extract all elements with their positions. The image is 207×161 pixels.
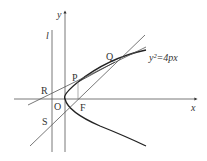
x-axis-label: x [190, 102, 196, 113]
point-f-label: F [80, 102, 86, 113]
curve-equation-label: y²=4px [148, 52, 178, 63]
point-q-label: Q [106, 51, 114, 62]
point-o-label: O [54, 101, 61, 112]
point-p-label: P [72, 72, 78, 83]
y-axis-label: y [56, 9, 62, 20]
point-r-label: R [41, 85, 48, 96]
point-s-label: S [42, 116, 48, 127]
parabola-curve [65, 50, 146, 146]
diagram-canvas: y x l y²=4px Q P R O F S [0, 0, 207, 161]
directrix-label: l [46, 30, 49, 41]
parabola-diagram: y x l y²=4px Q P R O F S [0, 0, 207, 161]
tangent-line-p [28, 47, 146, 105]
chord-pq [78, 62, 115, 82]
